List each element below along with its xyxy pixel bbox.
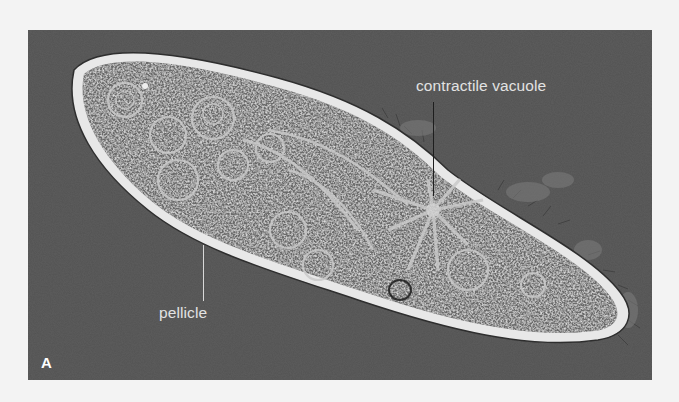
contractile-vacuole-label: contractile vacuole: [416, 78, 546, 94]
pellicle-leader-line: [203, 245, 204, 301]
paramecium-illustration: [28, 30, 652, 380]
pellicle-label: pellicle: [159, 305, 207, 321]
contractile-vacuole-leader-line: [433, 102, 434, 196]
micrograph-photo: contractile vacuole pellicle A: [28, 30, 652, 380]
panel-letter: A: [41, 355, 52, 370]
